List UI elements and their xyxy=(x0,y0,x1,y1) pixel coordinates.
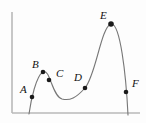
data-point-e xyxy=(108,21,114,27)
point-label-a: A xyxy=(20,84,27,95)
graph-canvas xyxy=(0,0,146,123)
data-point-f xyxy=(124,90,129,95)
graph-figure: ABCDEF xyxy=(0,0,146,123)
data-point-d xyxy=(83,86,88,91)
function-curve xyxy=(29,24,128,115)
point-label-b: B xyxy=(32,59,39,70)
point-label-d: D xyxy=(74,72,82,83)
data-point-b xyxy=(41,70,46,75)
point-label-e: E xyxy=(100,10,107,21)
data-point-c xyxy=(47,78,52,83)
point-label-f: F xyxy=(132,78,139,89)
point-label-c: C xyxy=(56,68,63,79)
data-point-a xyxy=(30,95,35,100)
data-points-group xyxy=(30,21,129,99)
